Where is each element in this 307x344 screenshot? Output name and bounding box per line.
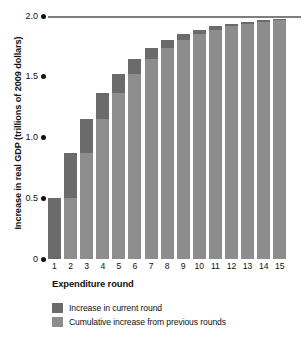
y-axis-tick-marker-icon [41, 74, 46, 79]
x-axis-tick-label: 12 [225, 261, 238, 271]
y-axis-tick-marker-icon [41, 257, 46, 262]
legend-item: Increase in current round [52, 303, 302, 313]
y-axis-tick-marker-icon [41, 196, 46, 201]
y-axis-tick-marker-icon [41, 14, 46, 19]
bar-segment-previous-rounds [80, 153, 93, 259]
bar-segment-current-round [145, 48, 158, 59]
bar-segment-current-round [80, 119, 93, 153]
y-axis-tick-label: 0.5 [25, 194, 38, 203]
bar-segment-current-round [128, 59, 141, 73]
x-axis-tick-label: 15 [273, 261, 286, 271]
x-axis-tick-label: 5 [112, 261, 125, 271]
bar-column [161, 16, 174, 259]
bar-column [128, 16, 141, 259]
bar-column [48, 16, 61, 259]
legend-swatch-icon [52, 317, 63, 327]
bar-segment-previous-rounds [96, 119, 109, 259]
y-axis-tick-label: 1.5 [25, 72, 38, 81]
y-axis-tick-label: 2.0 [25, 12, 38, 21]
x-axis-tick-label: 3 [80, 261, 93, 271]
x-axis-tick-label: 9 [177, 261, 190, 271]
bar-segment-current-round [161, 40, 174, 48]
bar-column [241, 16, 254, 259]
y-axis-tick-label: 1.0 [25, 133, 38, 142]
bar-segment-previous-rounds [225, 26, 238, 259]
bar-column [273, 16, 286, 259]
y-axis-title: Increase in real GDP (trillions of 2009 … [13, 11, 23, 255]
bar-segment-previous-rounds [128, 74, 141, 259]
bar-segment-previous-rounds [145, 59, 158, 259]
x-axis-title: Expenditure round [52, 278, 134, 289]
legend-label: Increase in current round [69, 303, 162, 313]
x-axis-tick-label: 7 [145, 261, 158, 271]
bar-segment-current-round [64, 153, 77, 199]
x-axis-tick-label: 8 [161, 261, 174, 271]
bar-column [209, 16, 222, 259]
bar-group [48, 16, 301, 259]
bar-column [112, 16, 125, 259]
y-axis-tick-label: 0 [33, 255, 38, 264]
bar-column [96, 16, 109, 259]
bar-segment-current-round [48, 198, 61, 259]
bar-column [145, 16, 158, 259]
bar-column [225, 16, 238, 259]
bar-column [257, 16, 270, 259]
bar-column [193, 16, 206, 259]
legend-label: Cumulative increase from previous rounds [69, 317, 226, 327]
bar-segment-previous-rounds [257, 22, 270, 259]
bar-segment-previous-rounds [64, 198, 77, 259]
x-axis-tick-label: 14 [257, 261, 270, 271]
x-axis-tick-label: 6 [128, 261, 141, 271]
bar-segment-previous-rounds [209, 30, 222, 259]
x-axis-tick-label: 11 [209, 261, 222, 271]
plot-area: 00.51.01.52.0 [48, 16, 301, 259]
x-axis-tick-label: 4 [96, 261, 109, 271]
y-axis-tick-marker-icon [41, 135, 46, 140]
x-axis-tick-labels: 123456789101112131415 [48, 261, 301, 271]
bar-segment-previous-rounds [112, 93, 125, 259]
chart-figure: Increase in real GDP (trillions of 2009 … [0, 0, 307, 344]
x-axis-tick-label: 10 [193, 261, 206, 271]
legend-item: Cumulative increase from previous rounds [52, 317, 302, 327]
bar-segment-previous-rounds [161, 48, 174, 259]
bar-column [64, 16, 77, 259]
bar-column [80, 16, 93, 259]
chart-legend: Increase in current roundCumulative incr… [52, 303, 302, 331]
x-axis-tick-label: 1 [48, 261, 61, 271]
x-axis-tick-label: 13 [241, 261, 254, 271]
bar-segment-current-round [96, 93, 109, 119]
bar-segment-previous-rounds [177, 40, 190, 259]
bar-segment-current-round [112, 74, 125, 93]
legend-swatch-icon [52, 303, 63, 313]
bar-segment-previous-rounds [273, 20, 286, 259]
bar-column [177, 16, 190, 259]
bar-segment-previous-rounds [241, 24, 254, 259]
bar-segment-previous-rounds [193, 34, 206, 259]
x-axis-tick-label: 2 [64, 261, 77, 271]
